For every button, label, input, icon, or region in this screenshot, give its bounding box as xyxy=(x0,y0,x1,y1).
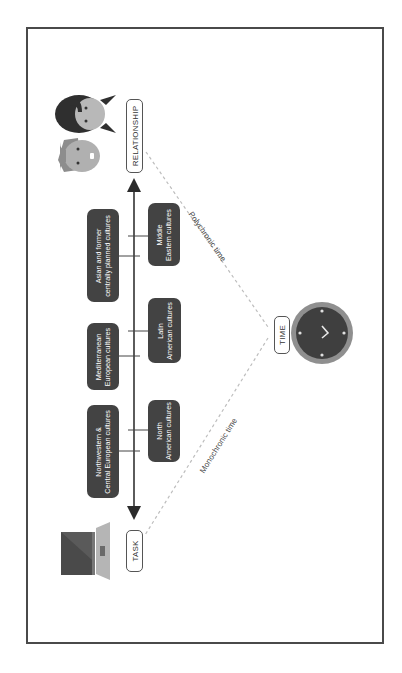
culture-box-label: Latin American cultures xyxy=(156,302,174,360)
culture-line2: centrally planned cultures xyxy=(103,215,112,297)
culture-line2: Eastern cultures xyxy=(164,209,173,261)
culture-line1: Latin xyxy=(156,302,165,360)
culture-box-label: Northwestern & Central European cultures xyxy=(94,410,112,494)
axis-arrow xyxy=(127,178,141,520)
culture-box-mediterranean-european: Mediterranean European cultures xyxy=(87,323,119,390)
culture-line2: Central European cultures xyxy=(103,410,112,494)
relationship-label-text: RELATIONSHIP xyxy=(130,106,139,167)
laptop-icon xyxy=(61,522,110,580)
culture-line1: Asian and former xyxy=(94,215,103,297)
culture-box-north-american: North American cultures xyxy=(148,400,180,462)
time-label-text: TIME xyxy=(278,325,287,345)
culture-box-label: North American cultures xyxy=(155,402,173,460)
culture-line2: American cultures xyxy=(165,302,174,360)
culture-box-asian-centrally-planned: Asian and former centrally planned cultu… xyxy=(87,209,119,302)
culture-line1: Northwestern & xyxy=(94,410,103,494)
clock-icon xyxy=(291,302,353,364)
culture-line1: Mediterranean xyxy=(94,327,103,385)
culture-line1: Middle xyxy=(155,209,164,261)
culture-box-latin-american: Latin American cultures xyxy=(148,298,181,363)
culture-box-label: Asian and former centrally planned cultu… xyxy=(94,215,112,297)
time-label: TIME xyxy=(274,316,290,354)
culture-line2: American cultures xyxy=(164,402,173,460)
culture-box-label: Middle Eastern cultures xyxy=(155,209,173,261)
culture-box-middle-eastern: Middle Eastern cultures xyxy=(148,203,180,266)
two-faces-icon xyxy=(55,95,116,172)
task-label: TASK xyxy=(126,530,143,572)
relationship-label: RELATIONSHIP xyxy=(126,99,143,173)
culture-box-label: Mediterranean European cultures xyxy=(94,327,112,385)
culture-box-northwestern-european: Northwestern & Central European cultures xyxy=(87,405,119,498)
task-label-text: TASK xyxy=(130,540,139,561)
culture-line2: European cultures xyxy=(103,327,112,385)
culture-line1: North xyxy=(155,402,164,460)
diagram-graphics xyxy=(0,0,402,673)
